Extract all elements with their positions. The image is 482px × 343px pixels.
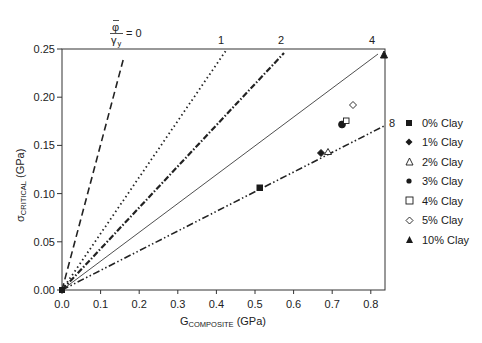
x-tick-label: 0.5 <box>247 298 262 310</box>
label-ratio-4: 4 <box>369 34 375 46</box>
data-points <box>60 51 388 293</box>
filled-triangle-icon <box>402 235 416 244</box>
y-tick-label: 0.10 <box>34 188 55 200</box>
x-tick-label: 0.7 <box>325 298 340 310</box>
line-ratio-1 <box>62 51 226 291</box>
legend-item-5pct: 5% Clay <box>402 211 469 231</box>
open-triangle-icon <box>402 157 416 166</box>
legend-item-3pct: 3% Clay <box>402 172 469 192</box>
svg-text:= 0: = 0 <box>126 27 142 39</box>
x-axis <box>62 290 371 294</box>
x-tick-label: 0.3 <box>170 298 185 310</box>
svg-text:γ: γ <box>111 34 117 46</box>
legend-item-10pct: 10% Clay <box>402 230 469 250</box>
y-tick-label: 0.25 <box>34 43 55 55</box>
legend-label: 2% Clay <box>422 156 463 168</box>
point-0pct-clay <box>257 185 263 191</box>
legend-label: 1% Clay <box>422 136 463 148</box>
legend-item-2pct: 2% Clay <box>402 152 469 172</box>
point-0pct-origin <box>60 288 65 293</box>
legend-label: 3% Clay <box>422 175 463 187</box>
legend: 0% Clay 1% Clay 2% Clay 3% Clay 4% Clay … <box>402 113 469 250</box>
y-axis <box>57 49 62 290</box>
label-ratio-2: 2 <box>278 34 284 46</box>
label-ratio-1: 1 <box>218 34 224 46</box>
y-axis-title: σCRITICAL (GPa) <box>14 149 28 222</box>
x-tick-label: 0.0 <box>54 298 69 310</box>
ratio-zero-annotation: φ γ y = 0 <box>110 21 142 49</box>
legend-label: 4% Clay <box>422 195 463 207</box>
svg-text:φ: φ <box>112 21 119 33</box>
line-ratio-0 <box>62 58 124 291</box>
point-10pct-clay <box>381 51 388 58</box>
point-1pct-clay <box>318 150 325 157</box>
label-ratio-8: 8 <box>389 117 395 129</box>
y-tick-label: 0.20 <box>34 91 55 103</box>
legend-label: 0% Clay <box>422 117 463 129</box>
legend-item-1pct: 1% Clay <box>402 133 469 153</box>
svg-text:y: y <box>118 39 122 48</box>
line-ratio-2 <box>62 53 284 290</box>
x-axis-title: GCOMPOSITE (GPa) <box>180 315 266 329</box>
y-tick-label: 0.15 <box>34 139 55 151</box>
y-tick-labels: 0.00 0.05 0.10 0.15 0.20 0.25 <box>34 43 55 296</box>
line-labels: 1 2 4 8 φ γ y = 0 <box>110 21 395 130</box>
filled-square-icon <box>402 119 416 127</box>
filled-circle-icon <box>402 177 416 185</box>
x-tick-labels: 0.0 0.1 0.2 0.3 0.4 0.5 0.6 0.7 0.8 <box>54 298 378 310</box>
line-ratio-8 <box>62 126 384 290</box>
x-tick-label: 0.2 <box>132 298 147 310</box>
open-diamond-icon <box>402 216 416 225</box>
reference-lines <box>62 51 384 291</box>
x-tick-label: 0.1 <box>93 298 108 310</box>
legend-item-4pct: 4% Clay <box>402 191 469 211</box>
y-tick-label: 0.00 <box>34 284 55 296</box>
legend-label: 10% Clay <box>422 234 469 246</box>
point-2pct-clay <box>325 149 332 155</box>
point-5pct-clay <box>350 102 357 109</box>
legend-item-0pct: 0% Clay <box>402 113 469 133</box>
filled-diamond-icon <box>402 138 416 146</box>
x-tick-label: 0.6 <box>286 298 301 310</box>
point-4pct-clay <box>344 118 350 124</box>
y-tick-label: 0.05 <box>34 236 55 248</box>
x-tick-label: 0.8 <box>363 298 378 310</box>
x-tick-label: 0.4 <box>209 298 224 310</box>
legend-label: 5% Clay <box>422 214 463 226</box>
line-ratio-4 <box>62 54 378 290</box>
open-square-icon <box>402 196 416 205</box>
